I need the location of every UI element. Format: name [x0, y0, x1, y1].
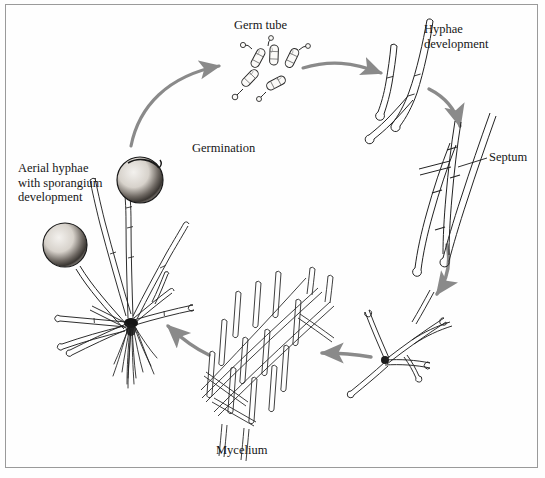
label-mycelium: Mycelium	[216, 443, 267, 458]
stage-septum	[413, 113, 496, 276]
arrow-to-septum	[429, 89, 460, 126]
stage-germ-tube	[232, 36, 310, 102]
stage-mycelium	[201, 267, 334, 461]
arrow-to-mycelium	[322, 353, 371, 357]
life-cycle-illustration	[0, 0, 545, 478]
figure-canvas: Germ tube Hyphae development Septum Germ…	[0, 0, 545, 478]
arrow-to-aerial	[168, 326, 209, 355]
arrow-germination	[131, 66, 219, 146]
label-germ-tube: Germ tube	[234, 18, 287, 33]
stage-hyphae-development	[365, 19, 433, 144]
arrow-to-hyphae	[303, 63, 381, 73]
sporangium-upper	[117, 157, 163, 203]
label-aerial-hyphae: Aerial hyphae with sporangium developmen…	[18, 161, 102, 205]
label-germination: Germination	[192, 141, 255, 156]
label-hyphae-development: Hyphae development	[424, 22, 489, 51]
sporangium-lower	[43, 223, 87, 267]
stage-branching-colony	[347, 290, 452, 398]
label-septum: Septum	[489, 150, 527, 165]
